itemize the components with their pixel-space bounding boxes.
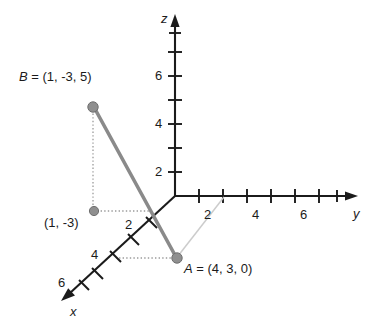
- x-tick-label-2: 2: [125, 218, 132, 231]
- point-b-projection-label: (1, -3): [44, 216, 79, 229]
- point-b-projection-marker: [89, 206, 98, 215]
- point-a-name: A: [184, 261, 193, 276]
- x-tick-label-6: 6: [58, 276, 65, 289]
- point-a-coords: = (4, 3, 0): [193, 261, 253, 276]
- point-b-label: B = (1, -3, 5): [19, 70, 92, 83]
- point-a-label: A = (4, 3, 0): [184, 262, 252, 275]
- guide-a-to-y-axis: [178, 197, 224, 256]
- point-b-marker: [88, 102, 98, 112]
- coordinate-system-figure: z y x 6 4 2 2 4 6 2 4 6 B = (1, -3, 5) A…: [0, 0, 372, 331]
- y-axis-arrowhead: [345, 191, 358, 200]
- z-tick-label-6: 6: [155, 69, 162, 82]
- z-tick-label-4: 4: [155, 117, 162, 130]
- plot-canvas: [0, 0, 372, 331]
- point-b-coords: = (1, -3, 5): [28, 69, 92, 84]
- y-axis: [175, 189, 358, 203]
- point-b-name: B: [19, 69, 28, 84]
- y-tick-label-4: 4: [252, 208, 259, 221]
- z-axis-label: z: [161, 12, 168, 25]
- y-axis-label: y: [353, 207, 360, 220]
- x-tick-label-4: 4: [91, 248, 98, 261]
- x-axis-label: x: [70, 305, 77, 318]
- segment-ab: [95, 109, 176, 257]
- z-tick-label-2: 2: [155, 165, 162, 178]
- x-axis: [61, 196, 175, 301]
- guide-lines: [93, 110, 224, 258]
- y-tick-label-2: 2: [204, 208, 211, 221]
- point-a-marker: [172, 253, 182, 263]
- axis-group: [61, 14, 358, 301]
- z-axis-arrowhead: [170, 14, 179, 27]
- y-tick-label-6: 6: [300, 208, 307, 221]
- z-axis: [168, 14, 182, 196]
